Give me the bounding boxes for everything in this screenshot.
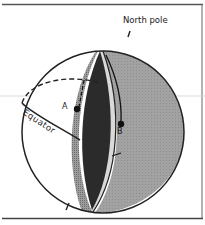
point-a-marker (74, 106, 80, 112)
north-pole-label: North pole (123, 16, 168, 25)
diagram-canvas: North pole A B Equator (0, 0, 205, 225)
north-pole-tick (128, 31, 130, 37)
point-a-label: A (62, 103, 67, 111)
point-b-label: B (117, 128, 123, 136)
